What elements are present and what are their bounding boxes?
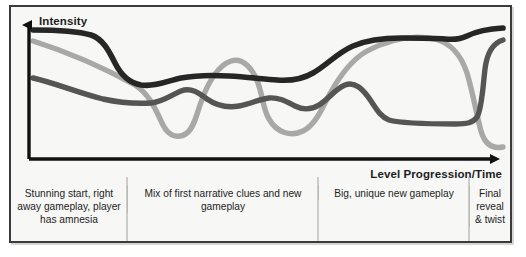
intensity-curve-figure: Intensity Level Progression/Time Stunnin… <box>0 0 526 257</box>
stage-caption-strip: Stunning start, right away gameplay, pla… <box>11 185 510 241</box>
stage-caption-4-text: Final reveal & twist <box>475 187 505 227</box>
y-axis-label: Intensity <box>39 15 87 27</box>
x-axis-label: Level Progression/Time <box>370 168 502 180</box>
curves-svg <box>11 7 510 167</box>
stage-caption-1-text: Stunning start, right away gameplay, pla… <box>16 187 122 227</box>
stage-caption-3: Big, unique new gameplay <box>318 185 469 200</box>
figure-frame: Intensity Level Progression/Time Stunnin… <box>9 5 512 243</box>
stage-caption-4: Final reveal & twist <box>469 185 510 227</box>
plot-area: Intensity <box>11 7 514 167</box>
light-gray-curve <box>33 37 503 147</box>
dark-curve <box>33 28 503 85</box>
stage-caption-2: Mix of first narrative clues and new gam… <box>127 185 318 213</box>
stage-caption-3-text: Big, unique new gameplay <box>324 187 464 200</box>
stage-caption-1: Stunning start, right away gameplay, pla… <box>11 185 127 227</box>
stage-caption-2-text: Mix of first narrative clues and new gam… <box>133 187 313 213</box>
